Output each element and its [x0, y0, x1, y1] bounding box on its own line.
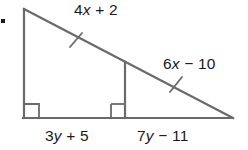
label-bottom-left-side: 3y + 5: [45, 128, 89, 144]
label-bottom-right-side: 7y − 11: [137, 128, 189, 144]
right-angle-marker-left: [24, 104, 39, 118]
triangle-figure: [0, 0, 248, 150]
label-right-side: 6x − 10: [163, 56, 216, 72]
label-top-side: 4x + 2: [74, 2, 118, 18]
